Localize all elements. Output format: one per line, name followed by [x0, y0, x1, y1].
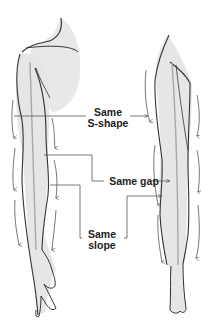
same-s-shape-label: Same S-shape	[86, 107, 130, 129]
arm-leg-illustration	[0, 0, 213, 328]
figure-canvas: Same S-shape Same gap Same slope	[0, 0, 213, 328]
label-line: S-shape	[86, 118, 130, 129]
slope-bracket-right	[124, 196, 162, 238]
arm-figure	[12, 18, 80, 317]
same-slope-label: Same slope	[80, 229, 124, 251]
label-line: slope	[80, 240, 124, 251]
slope-bracket-left	[50, 185, 82, 238]
foot-outline	[170, 264, 186, 313]
same-gap-label: Same gap	[104, 176, 164, 187]
label-line: Same gap	[104, 176, 164, 187]
gap-leader-left	[44, 155, 104, 181]
